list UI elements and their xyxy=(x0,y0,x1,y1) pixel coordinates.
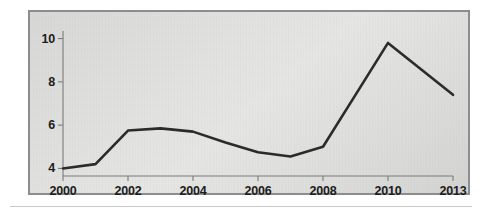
figure-divider-rule xyxy=(10,206,472,207)
y-axis-tick-label: 8 xyxy=(19,76,55,89)
x-axis-tick-label: 2004 xyxy=(179,185,206,198)
x-axis-tick-label: 2013 xyxy=(439,185,466,198)
y-axis-tick-label: 10 xyxy=(19,32,55,45)
x-axis-tick-label: 2008 xyxy=(309,185,336,198)
chart-panel xyxy=(28,10,470,195)
x-axis-tick-label: 2006 xyxy=(244,185,271,198)
figure-root: 46810 2000200220042006200820102013 xyxy=(0,0,496,221)
y-axis-tick-label: 4 xyxy=(19,162,55,175)
panel-texture xyxy=(30,12,468,193)
y-axis-tick-label: 6 xyxy=(19,119,55,132)
x-axis-tick-label: 2000 xyxy=(49,185,76,198)
x-axis-tick-label: 2010 xyxy=(374,185,401,198)
x-axis-tick-label: 2002 xyxy=(114,185,141,198)
